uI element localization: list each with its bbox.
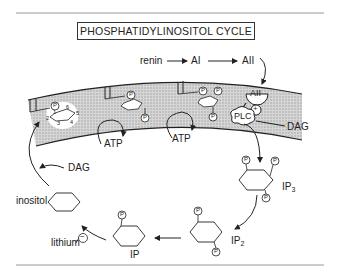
angiotensin-2-label: AII (242, 56, 254, 66)
ip2-label: IP2 (231, 236, 244, 247)
plc-label: PLC (234, 112, 252, 121)
phosphate-p: P (214, 248, 218, 254)
atp-label-1: ATP (104, 139, 123, 149)
dag-right-label: DAG (287, 122, 309, 132)
phosphate-p: P (211, 113, 215, 119)
inositol-label: inositol (16, 196, 47, 206)
phosphate-p: P (143, 114, 147, 120)
ring-number-2: 2 (46, 116, 49, 122)
ring-number-6: 6 (66, 105, 69, 111)
phosphate-p: P (244, 156, 248, 162)
ip3-label: IP3 (282, 182, 295, 193)
phosphate-p: P (129, 91, 133, 97)
inositol-molecule (48, 193, 80, 211)
phosphate-p: P (273, 157, 277, 163)
ip-label: IP (130, 250, 139, 260)
atp-label-2: ATP (172, 134, 191, 144)
angiotensin-1-label: AI (191, 56, 200, 66)
inhibition-sign: − (80, 233, 85, 241)
phosphate-p: P (216, 87, 220, 93)
ring-number-5: 5 (76, 111, 79, 117)
ring-number-3: 3 (57, 121, 60, 127)
ip-molecule (113, 211, 145, 246)
ring-number-1: 1 (53, 110, 56, 116)
phosphate-p: P (264, 194, 268, 200)
phosphate-p: P (196, 207, 200, 213)
diagram-title: PHOSPHATIDYLINOSITOL CYCLE (77, 22, 255, 40)
diagram-canvas (0, 0, 339, 275)
phosphate-p: P (201, 87, 205, 93)
dag-left-label: DAG (68, 163, 90, 173)
receptor-label: AII (250, 89, 261, 98)
ring-number-4: 4 (70, 120, 73, 126)
lithium-label: lithium (51, 238, 80, 248)
phosphate-p: P (53, 102, 57, 108)
phosphate-p: P (120, 211, 124, 217)
renin-label: renin (140, 56, 162, 66)
activation-sign: + (253, 105, 258, 113)
